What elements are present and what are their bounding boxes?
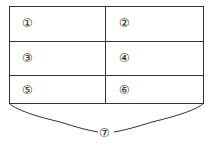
brace-right <box>114 104 204 133</box>
cell-label-3: ③ <box>22 51 33 65</box>
cell-label-2: ② <box>119 16 130 30</box>
cell-label-5: ⑤ <box>22 83 33 97</box>
cell-label-6: ⑥ <box>119 83 130 97</box>
cell-label-4: ④ <box>119 51 130 65</box>
cell-label-1: ① <box>22 16 33 30</box>
brace-label: ⑦ <box>99 126 110 140</box>
table-border <box>10 7 204 104</box>
brace-left <box>10 104 99 133</box>
